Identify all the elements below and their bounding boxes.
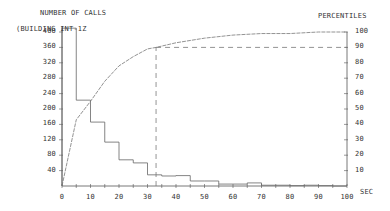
x-tick-label: 80 [286,193,295,201]
right-tick-label: 100 [355,27,368,35]
left-tick-label: 40 [47,166,56,174]
x-tick-label: 100 [340,193,353,201]
histogram-step [62,28,347,186]
x-tick-label: 40 [172,193,181,201]
x-tick-label: 0 [60,193,64,201]
right-tick-label: 80 [355,58,364,66]
left-tick-label: 280 [43,73,56,81]
left-tick-label: 320 [43,58,56,66]
x-tick-label: 90 [314,193,323,201]
right-tick-label: 10 [355,166,364,174]
x-tick-label: 50 [200,193,209,201]
x-axis-unit: SEC [360,188,373,196]
x-tick-label: 30 [143,193,152,201]
right-tick-label: 70 [355,73,364,81]
x-tick-label: 10 [86,193,95,201]
left-tick-label: 80 [47,150,56,158]
right-tick-label: 30 [355,135,364,143]
right-tick-label: 20 [355,150,364,158]
x-tick-label: 60 [229,193,238,201]
right-tick-label: 60 [355,89,364,97]
x-tick-label: 70 [257,193,266,201]
left-tick-label: 240 [43,89,56,97]
left-tick-label: 400 [43,27,56,35]
left-tick-label: 200 [43,104,56,112]
left-tick-label: 160 [43,119,56,127]
right-tick-label: 90 [355,42,364,50]
right-tick-label: 40 [355,119,364,127]
left-axis-title: NUMBER OF CALLS [40,9,106,17]
percentile-curve [62,32,347,186]
left-tick-label: 120 [43,135,56,143]
x-tick-label: 20 [115,193,124,201]
right-axis-title: PERCENTILES [318,12,367,20]
right-tick-label: 50 [355,104,364,112]
left-tick-label: 360 [43,42,56,50]
